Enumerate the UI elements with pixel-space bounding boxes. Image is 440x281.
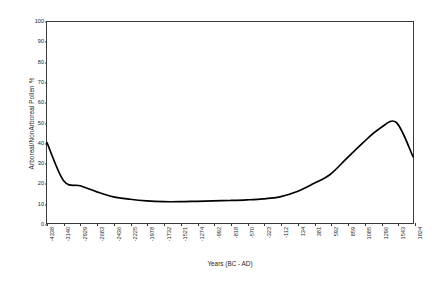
x-tick-mark xyxy=(64,223,65,226)
x-tick-label: -818 xyxy=(234,227,240,238)
x-tick-label: -4338 xyxy=(50,227,56,241)
x-tick-mark xyxy=(331,223,332,226)
x-tick-label: -2225 xyxy=(133,227,139,241)
y-tick-label: 100 xyxy=(35,19,44,25)
pollen-curve xyxy=(47,22,413,223)
x-tick-label: -2929 xyxy=(83,227,89,241)
x-tick-mark xyxy=(298,223,299,226)
x-tick-label: -1521 xyxy=(183,227,189,241)
y-tick-label: 30 xyxy=(38,161,44,167)
x-tick-label: -323 xyxy=(267,227,273,238)
y-tick-label: 80 xyxy=(38,60,44,66)
x-tick-label: -2436 xyxy=(117,227,123,241)
x-tick-label: 1824 xyxy=(418,227,424,239)
x-tick-mark xyxy=(97,223,98,226)
x-tick-mark xyxy=(147,223,148,226)
x-tick-label: 1296 xyxy=(384,227,390,239)
y-tick-label: 20 xyxy=(38,182,44,188)
x-tick-mark xyxy=(231,223,232,226)
y-tick-label: 60 xyxy=(38,100,44,106)
x-tick-label: -3140 xyxy=(66,227,72,241)
x-tick-label: 134 xyxy=(301,227,307,236)
pollen-percentage-line-chart: Arboreal/NonArboreal Pollen % 0102030405… xyxy=(0,0,440,281)
x-tick-label: -992 xyxy=(217,227,223,238)
x-tick-mark xyxy=(415,223,416,226)
x-tick-label: 381 xyxy=(317,227,323,236)
y-tick-label: 90 xyxy=(38,40,44,46)
x-tick-mark xyxy=(281,223,282,226)
y-tick-label: 70 xyxy=(38,80,44,86)
x-tick-label: 859 xyxy=(351,227,357,236)
x-tick-mark xyxy=(198,223,199,226)
x-tick-mark xyxy=(214,223,215,226)
y-tick-label: 50 xyxy=(38,121,44,127)
x-tick-mark xyxy=(398,223,399,226)
x-tick-mark xyxy=(80,223,81,226)
y-axis-title: Arboreal/NonArboreal Pollen % xyxy=(28,29,35,219)
x-tick-label: -570 xyxy=(250,227,256,238)
x-tick-label: -1732 xyxy=(167,227,173,241)
x-tick-label: -1274 xyxy=(200,227,206,241)
plot-area: 0102030405060708090100 -4338-3140-2929-2… xyxy=(46,21,414,224)
x-tick-mark xyxy=(365,223,366,226)
y-tick-label: 40 xyxy=(38,141,44,147)
x-tick-label: -1978 xyxy=(150,227,156,241)
x-tick-mark xyxy=(348,223,349,226)
x-tick-mark xyxy=(181,223,182,226)
x-tick-label: 592 xyxy=(334,227,340,236)
x-tick-mark xyxy=(248,223,249,226)
x-tick-mark xyxy=(114,223,115,226)
x-tick-mark xyxy=(382,223,383,226)
x-tick-label: 1085 xyxy=(367,227,373,239)
x-tick-mark xyxy=(164,223,165,226)
x-tick-mark xyxy=(264,223,265,226)
x-tick-label: -112 xyxy=(284,227,290,238)
x-tick-label: 1543 xyxy=(401,227,407,239)
y-tick-label: 10 xyxy=(38,202,44,208)
x-tick-mark xyxy=(315,223,316,226)
x-axis-title: Years (BC - AD) xyxy=(46,260,414,267)
x-tick-mark xyxy=(131,223,132,226)
pollen-curve-path xyxy=(47,121,413,202)
x-tick-label: -2683 xyxy=(100,227,106,241)
x-tick-mark xyxy=(47,223,48,226)
